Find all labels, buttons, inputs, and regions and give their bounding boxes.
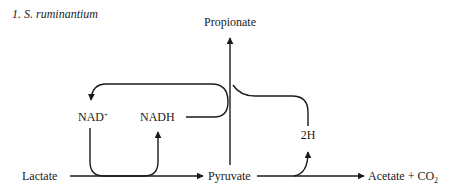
pyruvate-label: Pyruvate (208, 169, 251, 183)
nad-plus-label: NAD+ (78, 110, 108, 124)
acetate-co2-label: Acetate + CO2 (368, 169, 438, 185)
nadh-label: NADH (140, 110, 175, 124)
lactate-label: Lactate (22, 169, 57, 183)
nad-to-nadh-loop-arrow (90, 128, 158, 176)
two-h-label: 2H (301, 128, 316, 142)
two-h-release-arrow (294, 152, 308, 176)
metabolic-pathway-diagram: 1. S. ruminantium Propionate NAD+ NADH 2… (0, 0, 454, 190)
figure-title: 1. S. ruminantium (12, 7, 98, 21)
two-h-to-propionate-line (233, 85, 308, 126)
propionate-label: Propionate (204, 15, 256, 29)
